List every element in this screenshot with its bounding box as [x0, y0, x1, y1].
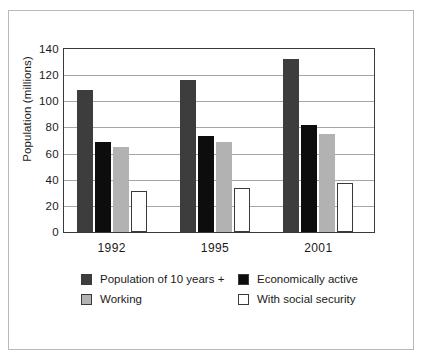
bar [216, 142, 232, 232]
bars-layer [64, 49, 374, 232]
legend-label: Population of 10 years + [100, 273, 224, 285]
y-tick-label: 100 [39, 95, 59, 107]
legend-item-with-social-security: With social security [238, 293, 355, 305]
bar [95, 142, 111, 232]
legend-swatch-icon [81, 274, 92, 285]
y-tick-label: 0 [52, 226, 59, 238]
y-tick-label: 40 [46, 174, 59, 186]
x-tick-label: 1995 [201, 241, 229, 255]
legend-row: Population of 10 years + Economically ac… [81, 273, 381, 285]
legend-label: With social security [257, 293, 355, 305]
legend-swatch-icon [238, 294, 249, 305]
bar [319, 134, 335, 232]
bar [283, 59, 299, 232]
bar [131, 191, 147, 232]
y-tick-label: 80 [46, 121, 59, 133]
bar [337, 183, 353, 232]
bar [198, 136, 214, 232]
legend-label: Working [100, 293, 142, 305]
legend-label: Economically active [257, 273, 358, 285]
legend-swatch-icon [238, 274, 249, 285]
plot-area: 020406080100120140 199219952001 [63, 48, 375, 233]
x-tick-label: 1992 [98, 241, 126, 255]
y-tick-label: 20 [46, 200, 59, 212]
y-tick-label: 60 [46, 148, 59, 160]
legend-item-economically-active: Economically active [238, 273, 358, 285]
y-axis-title: Population (millions) [21, 29, 33, 189]
bar [113, 147, 129, 232]
bar [301, 125, 317, 232]
chart-legend: Population of 10 years + Economically ac… [81, 273, 381, 313]
bar [180, 80, 196, 232]
bar [234, 188, 250, 232]
legend-item-working: Working [81, 293, 238, 305]
legend-swatch-icon [81, 294, 92, 305]
legend-item-population-of-10-years: Population of 10 years + [81, 273, 238, 285]
legend-row: Working With social security [81, 293, 381, 305]
y-tick-label: 140 [39, 43, 59, 55]
y-tick-label: 120 [39, 69, 59, 81]
bar [77, 90, 93, 232]
chart-figure: Population (millions) 020406080100120140… [8, 10, 414, 350]
x-tick-label: 2001 [304, 241, 332, 255]
